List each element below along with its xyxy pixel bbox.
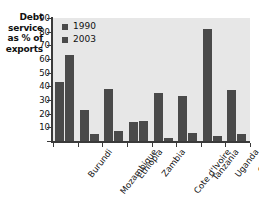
y-axis-tick-mark <box>47 141 51 142</box>
x-axis-tick-mark <box>152 143 153 147</box>
x-axis-tick-mark <box>127 143 128 147</box>
legend-swatch-icon-2003 <box>62 37 68 43</box>
bar-2003 <box>139 121 148 142</box>
legend-item-2003: 2003 <box>62 34 96 45</box>
y-axis-tick-mark <box>47 100 51 101</box>
bar-1990 <box>203 29 212 141</box>
legend-item-1990: 1990 <box>62 21 96 32</box>
x-axis-tick-mark <box>201 143 202 147</box>
y-axis-tick-mark <box>47 32 51 33</box>
bar-chart: Debt service as % of exports 90807060504… <box>0 0 259 211</box>
bar-2003 <box>164 138 173 141</box>
bar-1990 <box>80 110 89 141</box>
bar-2003 <box>213 136 222 141</box>
bar-1990 <box>227 90 236 141</box>
y-axis-tick-mark <box>47 86 51 87</box>
bar-1990 <box>178 96 187 141</box>
bar-2003 <box>65 55 74 141</box>
legend-label-1990: 1990 <box>73 22 96 31</box>
bar-group <box>152 18 177 141</box>
x-axis-label-burundi: Burundi <box>85 147 113 179</box>
y-axis-tick-mark <box>47 127 51 128</box>
bar-group <box>201 18 226 141</box>
bar-2003 <box>188 133 197 141</box>
y-axis-tick-mark <box>47 18 51 19</box>
bar-group <box>127 18 152 141</box>
x-axis-tick-mark <box>102 143 103 147</box>
x-axis-tick-mark <box>250 143 251 147</box>
bar-2003 <box>90 134 99 141</box>
x-axis-tick-mark <box>78 143 79 147</box>
x-axis-tick-mark <box>53 143 54 147</box>
bar-1990 <box>55 82 64 141</box>
bar-group <box>225 18 250 141</box>
x-axis-tick-mark <box>225 143 226 147</box>
bar-group <box>102 18 127 141</box>
x-axis-tick-mark <box>176 143 177 147</box>
bar-1990 <box>154 93 163 141</box>
bar-2003 <box>114 131 123 141</box>
bar-1990 <box>104 89 113 141</box>
legend-swatch-icon-1990 <box>62 24 68 30</box>
x-axis-line <box>51 141 250 143</box>
y-axis-tick-mark <box>47 114 51 115</box>
y-axis-tick-mark <box>47 45 51 46</box>
legend-label-2003: 2003 <box>73 35 96 44</box>
y-axis-tick-mark <box>47 73 51 74</box>
legend: 1990 2003 <box>62 21 96 47</box>
y-axis-tick-mark <box>47 59 51 60</box>
bar-group <box>176 18 201 141</box>
bar-2003 <box>237 134 246 141</box>
bar-1990 <box>129 122 138 141</box>
